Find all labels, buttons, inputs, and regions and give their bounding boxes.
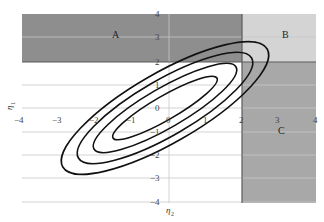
- svg-text:−2: −2: [89, 115, 99, 125]
- region-a-label: A: [112, 29, 120, 40]
- svg-text:1: 1: [203, 115, 208, 125]
- svg-text:2: 2: [171, 211, 174, 217]
- svg-text:2: 2: [155, 57, 160, 67]
- region-c-label: C: [278, 125, 285, 136]
- svg-text:0: 0: [155, 103, 160, 113]
- svg-text:4: 4: [155, 9, 160, 19]
- svg-text:−1: −1: [150, 127, 160, 137]
- svg-text:1: 1: [155, 80, 160, 90]
- svg-text:−4: −4: [150, 197, 160, 207]
- svg-text:−2: −2: [150, 150, 160, 160]
- svg-text:3: 3: [155, 32, 160, 42]
- y-axis-label: η 1: [4, 102, 16, 110]
- svg-text:−4: −4: [14, 115, 24, 125]
- svg-text:0: 0: [166, 115, 171, 125]
- svg-text:3: 3: [275, 115, 280, 125]
- svg-text:−3: −3: [150, 173, 160, 183]
- region-b-label: B: [282, 29, 289, 40]
- region-b: [242, 14, 316, 62]
- svg-text:4: 4: [313, 115, 318, 125]
- contour-figure: −4 −3 −2 −1 0 1 2 3 4 4 3 2 1 0 −1 −2 −3…: [0, 0, 324, 222]
- svg-text:−3: −3: [52, 115, 62, 125]
- svg-text:−1: −1: [126, 115, 136, 125]
- svg-text:2: 2: [239, 115, 244, 125]
- region-a: [22, 14, 242, 62]
- x-axis-label: η 2: [166, 205, 174, 217]
- svg-text:1: 1: [10, 102, 16, 105]
